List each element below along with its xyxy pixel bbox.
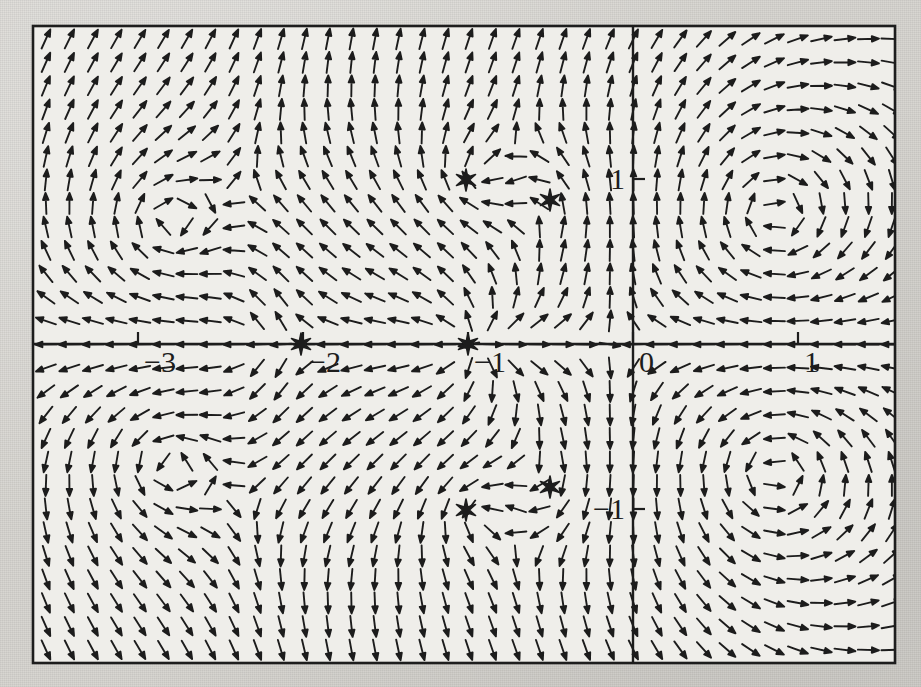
- x-tick-label-0: −3: [144, 345, 176, 378]
- direction-field-plot: −3−2−101−11: [0, 0, 921, 687]
- x-tick-label-4: 1: [804, 345, 819, 378]
- figure-page: −3−2−101−11: [0, 0, 921, 687]
- x-tick-label-3: 0: [639, 345, 654, 378]
- x-tick-label-2: −1: [474, 345, 506, 378]
- y-tick-label-1: 1: [610, 162, 625, 195]
- y-tick-label-0: −1: [593, 492, 625, 525]
- x-tick-label-1: −2: [309, 345, 341, 378]
